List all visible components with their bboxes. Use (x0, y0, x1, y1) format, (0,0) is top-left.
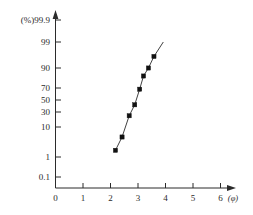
data-point-marker (146, 66, 150, 70)
x-tick-label-2: 2 (108, 193, 113, 203)
y-tick-label-4: 50 (41, 95, 51, 105)
y-tick-group (56, 20, 62, 177)
y-tick-label-2: 90 (41, 63, 51, 73)
y-tick-label-8: 0.1 (39, 172, 50, 182)
y-tick-label-1: 99 (41, 37, 51, 47)
x-tick-label-3: 3 (136, 193, 141, 203)
chart-canvas: (%)99.9 99 90 70 50 30 10 1 0.1 0 1 2 3 (0, 0, 253, 215)
y-axis-arrowhead (53, 10, 59, 19)
x-axis-title: (φ) (228, 193, 239, 203)
x-tick-label-5: 5 (191, 193, 196, 203)
data-point-marker (141, 74, 145, 78)
x-tick-label-6: 6 (218, 193, 223, 203)
y-tick-label-3: 70 (41, 83, 51, 93)
x-tick-label-4: 4 (163, 193, 168, 203)
data-point-marker (152, 54, 156, 58)
data-point-marker (113, 148, 117, 152)
axis-group (53, 10, 236, 191)
x-tick-group (56, 183, 221, 188)
probability-plot-chart: (%)99.9 99 90 70 50 30 10 1 0.1 0 1 2 3 (0, 0, 253, 215)
y-axis-unit-and-top-tick: (%)99.9 (21, 15, 51, 25)
x-tick-label-0: 0 (53, 193, 58, 203)
x-tick-label-group: 0 1 2 3 4 5 6 (53, 193, 223, 203)
series-marker-group (113, 54, 156, 152)
data-point-marker (138, 87, 142, 91)
y-tick-label-6: 10 (41, 122, 51, 132)
y-tick-label-0: 99.9 (34, 15, 50, 25)
y-axis-unit-label: (%) (21, 15, 35, 25)
data-point-marker (133, 103, 137, 107)
data-point-marker (120, 135, 124, 139)
x-tick-label-1: 1 (81, 193, 86, 203)
y-tick-label-5: 30 (41, 107, 51, 117)
x-axis-arrowhead (227, 185, 236, 191)
y-tick-label-group: (%)99.9 99 90 70 50 30 10 1 0.1 (21, 15, 51, 182)
data-point-marker (127, 114, 131, 118)
y-tick-label-7: 1 (46, 152, 51, 162)
